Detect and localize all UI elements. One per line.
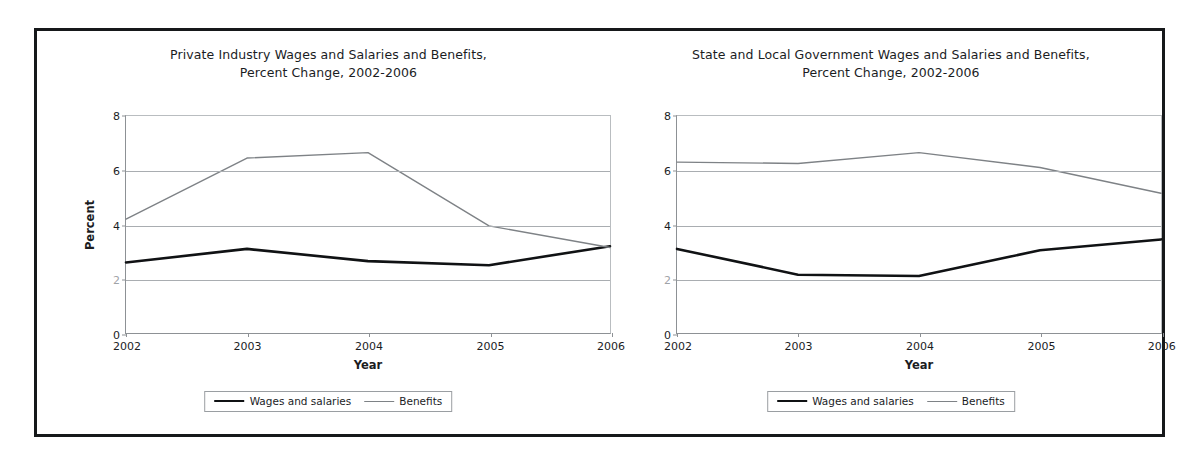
y-axis-title-private: Percent xyxy=(83,199,97,249)
gridline-y-4 xyxy=(126,226,610,227)
y-tick-label-2: 2 xyxy=(664,274,671,287)
gridline-y-4 xyxy=(677,226,1161,227)
series-line-wages-and-salaries xyxy=(677,239,1161,276)
legend-state-local-government: Wages and salaries Benefits xyxy=(767,391,1015,412)
chart-title-line-1: Private Industry Wages and Salaries and … xyxy=(37,46,620,64)
series-lines-state-local-government xyxy=(677,116,1161,333)
x-tick-mark-2002 xyxy=(126,333,127,337)
series-line-wages-and-salaries xyxy=(126,246,610,265)
plot-wrap-state-local-government: 8642020022003200420052006 Year xyxy=(642,115,1162,334)
legend-entry-wages-private: Wages and salaries xyxy=(215,395,352,407)
gridline-y-2 xyxy=(677,280,1161,281)
charts-row: Private Industry Wages and Salaries and … xyxy=(37,31,1162,434)
x-tick-mark-2004 xyxy=(369,333,370,337)
legend-entry-benefits-stlocal: Benefits xyxy=(927,395,1005,407)
y-tick-mark-6 xyxy=(673,170,677,171)
legend-line-swatch-benefits-icon xyxy=(364,401,394,402)
gridline-y-6 xyxy=(677,171,1161,172)
y-tick-label-8: 8 xyxy=(664,110,671,123)
x-tick-label-2006: 2006 xyxy=(1148,340,1176,353)
x-tick-mark-2004 xyxy=(920,333,921,337)
y-tick-mark-4 xyxy=(122,225,126,226)
x-tick-label-2003: 2003 xyxy=(234,340,262,353)
figure-frame: Private Industry Wages and Salaries and … xyxy=(34,28,1165,437)
legend-label-wages: Wages and salaries xyxy=(250,395,352,407)
legend-line-swatch-wages-icon xyxy=(777,400,807,402)
y-tick-mark-8 xyxy=(673,116,677,117)
chart-panel-private-industry: Private Industry Wages and Salaries and … xyxy=(37,31,620,434)
legend-line-swatch-benefits-icon xyxy=(927,401,957,402)
y-tick-mark-2 xyxy=(673,280,677,281)
x-tick-mark-2003 xyxy=(798,333,799,337)
x-axis-title-stlocal: Year xyxy=(676,358,1162,372)
y-tick-label-4: 4 xyxy=(113,219,120,232)
y-tick-mark-6 xyxy=(122,170,126,171)
x-tick-label-2005: 2005 xyxy=(477,340,505,353)
x-tick-label-2004: 2004 xyxy=(355,340,383,353)
legend-label-wages: Wages and salaries xyxy=(812,395,914,407)
y-tick-label-4: 4 xyxy=(664,219,671,232)
x-tick-label-2004: 2004 xyxy=(906,340,934,353)
legend-label-benefits: Benefits xyxy=(962,395,1005,407)
x-tick-mark-2002 xyxy=(677,333,678,337)
chart-panel-state-local-government: State and Local Government Wages and Sal… xyxy=(620,31,1162,434)
gridline-y-2 xyxy=(126,280,610,281)
x-tick-label-2005: 2005 xyxy=(1027,340,1055,353)
legend-line-swatch-wages-icon xyxy=(215,400,245,402)
plot-wrap-private-industry: Percent 8642020022003200420052006 Year xyxy=(91,115,611,334)
plot-area-state-local-government: 8642020022003200420052006 xyxy=(676,115,1162,334)
legend-label-benefits: Benefits xyxy=(399,395,442,407)
y-tick-mark-2 xyxy=(122,280,126,281)
y-tick-label-2: 2 xyxy=(113,274,120,287)
y-tick-label-6: 6 xyxy=(113,164,120,177)
chart-title-private-industry: Private Industry Wages and Salaries and … xyxy=(37,46,620,82)
series-lines-private-industry xyxy=(126,116,610,333)
legend-entry-wages-stlocal: Wages and salaries xyxy=(777,395,914,407)
x-tick-mark-2003 xyxy=(248,333,249,337)
series-line-benefits xyxy=(677,153,1161,194)
x-axis-title-private: Year xyxy=(125,358,611,372)
gridline-y-6 xyxy=(126,171,610,172)
x-tick-mark-2005 xyxy=(1041,333,1042,337)
chart-title-state-local-government: State and Local Government Wages and Sal… xyxy=(620,46,1162,82)
x-tick-label-2002: 2002 xyxy=(664,340,692,353)
legend-private-industry: Wages and salaries Benefits xyxy=(205,391,453,412)
legend-entry-benefits-private: Benefits xyxy=(364,395,442,407)
y-tick-label-6: 6 xyxy=(664,164,671,177)
y-tick-mark-4 xyxy=(673,225,677,226)
plot-area-private-industry: 8642020022003200420052006 xyxy=(125,115,611,334)
x-tick-mark-2006 xyxy=(612,333,613,337)
chart-title-line-2: Percent Change, 2002-2006 xyxy=(620,64,1162,82)
y-tick-mark-8 xyxy=(122,116,126,117)
chart-title-line-2: Percent Change, 2002-2006 xyxy=(37,64,620,82)
x-tick-label-2002: 2002 xyxy=(113,340,141,353)
x-tick-mark-2005 xyxy=(491,333,492,337)
x-tick-mark-2006 xyxy=(1163,333,1164,337)
x-tick-label-2003: 2003 xyxy=(784,340,812,353)
chart-title-line-1: State and Local Government Wages and Sal… xyxy=(620,46,1162,64)
series-line-benefits xyxy=(126,153,610,248)
y-tick-label-8: 8 xyxy=(113,110,120,123)
